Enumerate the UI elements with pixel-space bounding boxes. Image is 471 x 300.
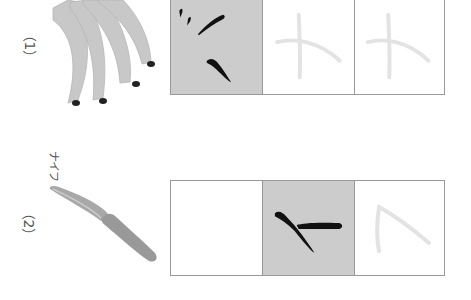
trace-character-icon: [355, 181, 444, 275]
practice-cell-trace[interactable]: [355, 181, 444, 275]
practice-grid-1: [170, 0, 445, 95]
practice-cell-trace[interactable]: [263, 0, 355, 94]
banana-bunch-icon: [48, 0, 163, 110]
trace-character-icon: [263, 0, 354, 94]
practice-cell-example: [263, 181, 355, 275]
practice-cell-example: [171, 0, 263, 94]
stroke-order-icon: [171, 0, 262, 94]
practice-cell-blank[interactable]: [171, 181, 263, 275]
practice-cell-trace[interactable]: [355, 0, 444, 94]
exercise-1-number: （1）: [21, 28, 41, 65]
stroke-order-icon: [263, 181, 354, 275]
reading-label: ナイフ: [47, 151, 63, 181]
exercise-2-number: （2）: [20, 206, 40, 243]
trace-character-icon: [355, 0, 444, 94]
practice-grid-2: [170, 180, 445, 276]
knife-icon: [45, 185, 165, 275]
